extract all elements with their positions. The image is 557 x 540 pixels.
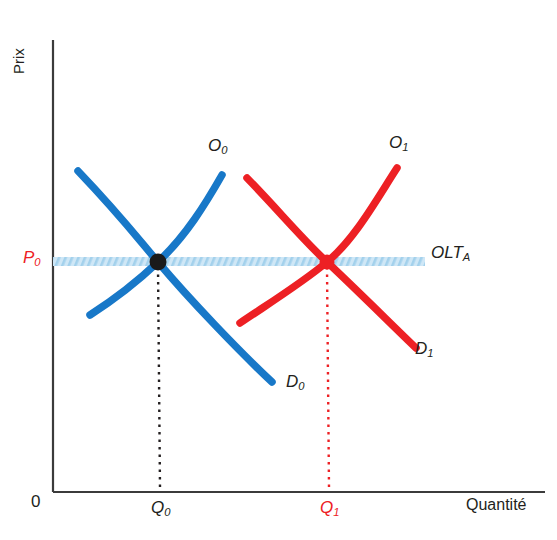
curve-label-supply-shifted: O1 (389, 133, 408, 153)
dropline-q0 (158, 267, 160, 488)
diagram-svg (0, 0, 557, 540)
figure-canvas: Prix Quantité 0 P0 Q0 Q1 O0 O1 D0 D1 OLT… (0, 0, 557, 540)
curve-label-supply-initial: O0 (208, 136, 227, 156)
dropline-q1 (327, 267, 329, 488)
y-axis-label: Prix (10, 48, 27, 74)
price-line-olt (53, 257, 425, 266)
curve-supply-initial (90, 175, 222, 315)
origin-label: 0 (31, 492, 40, 512)
x-axis-label: Quantité (466, 496, 526, 514)
curve-label-demand-shifted: D1 (415, 339, 434, 359)
point-equilibrium-initial (150, 254, 167, 271)
curve-label-demand-initial: D0 (286, 372, 305, 392)
quantity-label-q0: Q0 (151, 498, 170, 518)
point-equilibrium-shifted (320, 255, 335, 270)
price-label-p0: P0 (23, 248, 41, 268)
curve-demand-initial (78, 171, 272, 382)
quantity-label-q1: Q1 (320, 498, 339, 518)
price-line-label: OLTA (431, 243, 470, 263)
